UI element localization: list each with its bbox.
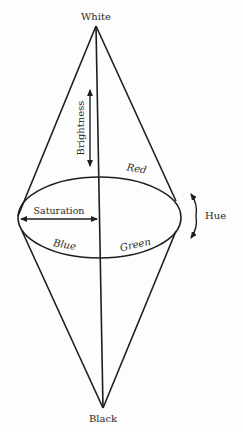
label-blue: Blue bbox=[51, 237, 77, 252]
label-red: Red bbox=[125, 161, 147, 175]
hue-arrow bbox=[191, 194, 196, 216]
label-white: White bbox=[81, 11, 111, 22]
label-brightness: Brightness bbox=[75, 101, 86, 156]
label-hue: Hue bbox=[205, 210, 226, 221]
hsb-double-cone-diagram: White Black Brightness Saturation Hue Re… bbox=[0, 0, 243, 432]
brightness-axis bbox=[96, 26, 103, 408]
label-black: Black bbox=[89, 413, 118, 424]
label-saturation: Saturation bbox=[33, 205, 84, 216]
